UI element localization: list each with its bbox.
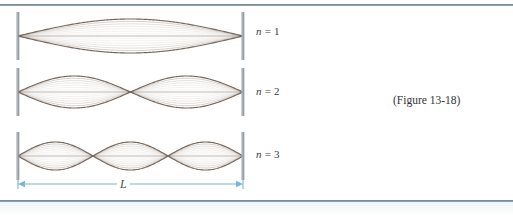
wave-snapshot xyxy=(18,24,243,36)
mode-symbol-n: n xyxy=(256,85,262,97)
mode-symbol-n: n xyxy=(256,148,262,160)
standing-wave-mode-n3 xyxy=(18,142,243,170)
standing-wave-mode-n2 xyxy=(18,76,243,108)
figure-caption: (Figure 13-18) xyxy=(393,94,460,106)
support-post-highlight xyxy=(17,12,18,60)
dimension-arrowhead-right xyxy=(236,181,243,187)
support-post-highlight xyxy=(17,68,18,116)
support-post-highlight xyxy=(242,68,243,116)
wave-snapshot xyxy=(18,36,243,48)
mode-value: 3 xyxy=(274,148,280,160)
support-post-highlight xyxy=(17,132,18,180)
dimension-arrowhead-left xyxy=(18,181,25,187)
mode-value: 1 xyxy=(274,25,280,37)
length-dimension-line xyxy=(18,179,243,189)
standing-wave-mode-n1 xyxy=(18,19,243,53)
mode-symbol-n: n xyxy=(256,25,262,37)
mode-value: 2 xyxy=(274,85,280,97)
mode-label-n2: n = 2 xyxy=(256,85,280,97)
mode-equals: = xyxy=(265,25,271,37)
mode-equals: = xyxy=(265,148,271,160)
support-post-highlight xyxy=(242,132,243,180)
mode-equals: = xyxy=(265,85,271,97)
mode-label-n1: n = 1 xyxy=(256,25,280,37)
mode-label-n3: n = 3 xyxy=(256,148,280,160)
length-dimension-label: L xyxy=(117,177,130,191)
standing-wave-figure: n = 1 n = 2 n = 3 L (Figure 13-18) xyxy=(0,0,513,215)
support-post-highlight xyxy=(242,12,243,60)
